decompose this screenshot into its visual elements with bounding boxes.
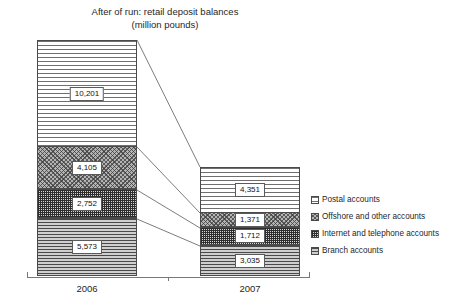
category-label-2007: 2007 <box>200 282 300 295</box>
segment-value-label: 5,573 <box>72 240 102 254</box>
column-2006[interactable]: 10,201 4,105 2,752 5,573 <box>37 40 137 277</box>
branch-swatch-icon <box>311 247 319 255</box>
connector-branch-top <box>137 219 200 246</box>
segment-2007-branch-accounts[interactable]: 3,035 <box>200 245 300 276</box>
legend-label: Postal accounts <box>322 195 380 205</box>
segment-value-label: 4,351 <box>235 183 265 197</box>
segment-2007-offshore-and-other-accounts[interactable]: 1,371 <box>200 212 300 227</box>
connector-offshore-top <box>137 147 200 213</box>
segment-2006-branch-accounts[interactable]: 5,573 <box>37 218 137 276</box>
segment-2006-offshore-and-other-accounts[interactable]: 4,105 <box>37 146 137 189</box>
connector-internet-top <box>137 190 200 228</box>
plot-area: 10,201 4,105 2,752 5,573 4,351 1,371 1,7… <box>0 0 451 306</box>
axis-tick-mid <box>168 277 169 281</box>
connector-postal-top <box>137 40 200 167</box>
segment-2006-postal-accounts[interactable]: 10,201 <box>37 40 137 147</box>
segment-value-label: 1,712 <box>235 229 265 243</box>
clipped-bottom-caption <box>4 299 304 306</box>
internet-swatch-icon <box>311 230 319 238</box>
legend-item-offshore-and-other-accounts[interactable]: Offshore and other accounts <box>311 208 451 225</box>
category-label-2006: 2006 <box>37 282 137 295</box>
segment-value-label: 3,035 <box>235 254 265 268</box>
legend-label: Branch accounts <box>322 246 383 256</box>
axis-cap-right <box>309 272 310 278</box>
offshore-swatch-icon <box>311 213 319 221</box>
segment-value-label: 4,105 <box>72 161 102 175</box>
chart-legend: Postal accounts Offshore and other accou… <box>311 191 451 259</box>
segment-2007-internet-and-telephone-accounts[interactable]: 1,712 <box>200 227 300 245</box>
postal-swatch-icon <box>311 196 319 204</box>
segment-2006-internet-and-telephone-accounts[interactable]: 2,752 <box>37 189 137 218</box>
column-2007[interactable]: 4,351 1,371 1,712 3,035 <box>200 167 300 277</box>
segment-value-label: 10,201 <box>70 87 104 101</box>
legend-label: Offshore and other accounts <box>322 212 425 222</box>
segment-2007-postal-accounts[interactable]: 4,351 <box>200 167 300 213</box>
segment-value-label: 2,752 <box>72 197 102 211</box>
legend-item-postal-accounts[interactable]: Postal accounts <box>311 191 451 208</box>
legend-label: Internet and telephone accounts <box>322 229 439 239</box>
segment-value-label: 1,371 <box>235 213 265 227</box>
axis-cap-left <box>27 272 28 278</box>
stacked-column-chart: After of run: retail deposit balances (m… <box>0 0 451 306</box>
legend-item-branch-accounts[interactable]: Branch accounts <box>311 242 451 259</box>
legend-item-internet-and-telephone-accounts[interactable]: Internet and telephone accounts <box>311 225 451 242</box>
